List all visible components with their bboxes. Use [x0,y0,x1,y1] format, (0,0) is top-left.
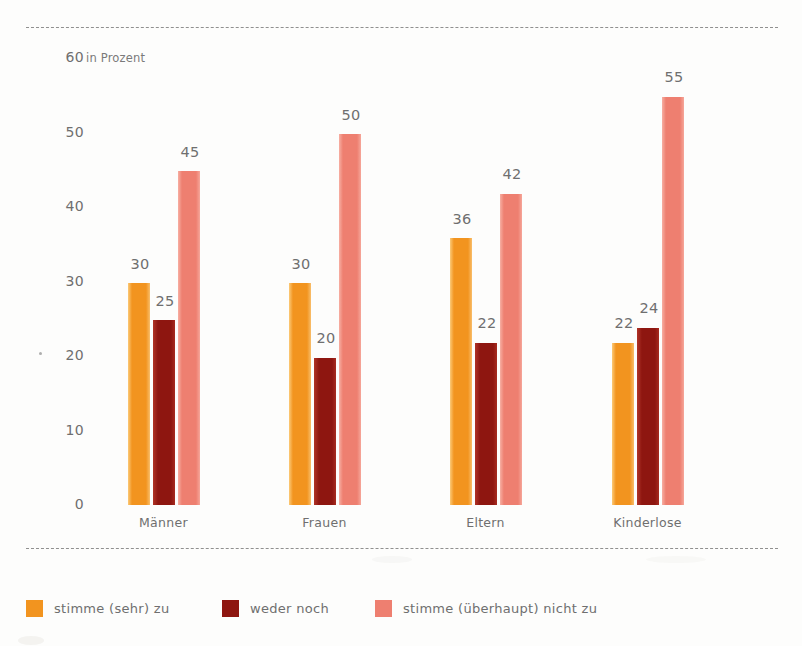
bar [289,283,311,505]
x-axis-category-label: Frauen [251,515,398,530]
chart-legend: stimme (sehr) zuweder nochstimme (überha… [0,600,802,630]
bar [128,283,150,505]
bar-fill [662,97,684,505]
bar-fill [128,283,150,505]
bar-value-label: 25 [151,293,179,309]
x-axis-category-label: Kinderlose [574,515,721,530]
bar-fill [178,171,200,505]
bar-value-label: 50 [337,107,365,123]
bar-value-label: 42 [498,166,526,182]
bar-value-label: 22 [610,315,638,331]
bar [662,97,684,505]
bar [612,343,634,505]
y-axis-tick-60: 60 [38,49,84,65]
bar-fill [289,283,311,505]
bar [500,194,522,505]
y-axis-tick-30: 30 [38,273,84,289]
legend-swatch-icon [375,600,392,617]
x-axis-category-label: Männer [90,515,237,530]
bar-value-label: 22 [473,315,501,331]
legend-label: stimme (überhaupt) nicht zu [403,601,597,616]
legend-label: weder noch [250,601,329,616]
legend-item[interactable]: weder noch [222,600,329,617]
y-axis-tick-10: 10 [38,422,84,438]
y-axis-tick-0: 0 [38,496,84,512]
bar [178,171,200,505]
bar-value-label: 20 [312,330,340,346]
legend-item[interactable]: stimme (überhaupt) nicht zu [375,600,597,617]
bar [314,358,336,505]
bar-fill [500,194,522,505]
legend-item[interactable]: stimme (sehr) zu [26,600,169,617]
plot-area: in Prozent 0102030405060 302545Männer302… [0,0,802,560]
y-axis-tick-50: 50 [38,124,84,140]
legend-swatch-icon [222,600,239,617]
bar-value-label: 30 [287,256,315,272]
bar [153,320,175,505]
axis-unit-label: in Prozent [86,51,145,65]
y-axis-tick-20: 20 [38,347,84,363]
bar-value-label: 30 [126,256,154,272]
bar-fill [637,328,659,505]
bar-fill [153,320,175,505]
y-axis-tick-40: 40 [38,198,84,214]
bar [637,328,659,505]
legend-label: stimme (sehr) zu [54,601,169,616]
bar-value-label: 24 [635,300,663,316]
bar-fill [475,343,497,505]
bar-value-label: 55 [660,69,688,85]
bar [339,134,361,505]
scan-artifact [18,636,44,645]
bar-value-label: 45 [176,144,204,160]
bar-fill [339,134,361,505]
bar [450,238,472,505]
x-axis-category-label: Eltern [412,515,559,530]
bar [475,343,497,505]
legend-swatch-icon [26,600,43,617]
bar-fill [450,238,472,505]
bar-fill [314,358,336,505]
chart-figure: in Prozent 0102030405060 302545Männer302… [0,0,802,646]
bar-fill [612,343,634,505]
bar-value-label: 36 [448,211,476,227]
